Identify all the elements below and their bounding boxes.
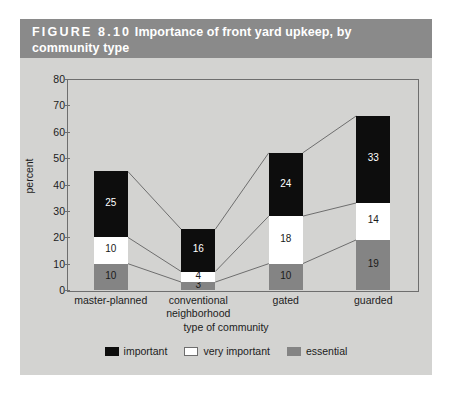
y-tick-label: 50 [39,152,65,164]
connector-line [303,240,357,264]
legend-item[interactable]: essential [287,345,347,357]
connector-line [215,264,269,282]
figure-title: FIGURE 8.10 Importance of front yard upk… [32,24,420,56]
bar-conventional-neighborhood[interactable]: 3416 [181,229,215,290]
y-tick-label: 20 [39,231,65,243]
y-tick-label: 60 [39,126,65,138]
connector-line [303,203,357,216]
bar-segment-value: 24 [269,179,303,189]
x-tick-label-line: neighborhood [143,307,253,320]
connector-line [128,171,182,229]
bar-segment-value: 33 [356,153,390,163]
legend-label: very important [203,345,270,357]
bar-segment-value: 10 [269,271,303,281]
bar-segment-essential[interactable]: 19 [356,240,390,290]
y-tick-label: 30 [39,205,65,217]
connector-line [128,264,182,282]
bar-gated[interactable]: 101824 [269,153,303,290]
x-tick-label: guarded [318,294,428,307]
very-important-swatch [184,347,198,356]
figure-panel: FIGURE 8.10 Importance of front yard upk… [20,19,432,375]
legend-label: important [124,345,168,357]
bar-segment-very-important[interactable]: 14 [356,203,390,240]
legend-label: essential [306,345,347,357]
bar-segment-very-important[interactable]: 10 [94,237,128,263]
bar-segment-value: 19 [356,259,390,269]
bar-segment-essential[interactable]: 3 [181,282,215,290]
bar-segment-value: 25 [94,198,128,208]
bar-segment-value: 16 [181,244,215,254]
y-tick-label: 10 [39,258,65,270]
bar-segment-important[interactable]: 25 [94,171,128,237]
bar-guarded[interactable]: 191433 [356,116,390,290]
bar-segment-very-important[interactable]: 18 [269,216,303,263]
figure-title-bar: FIGURE 8.10 Importance of front yard upk… [20,19,432,58]
y-tick-label: 70 [39,99,65,111]
connector-line [128,237,182,271]
y-tick-label: 80 [39,73,65,85]
important-swatch [105,347,119,356]
bar-segment-important[interactable]: 16 [181,229,215,271]
essential-swatch [287,347,301,356]
bar-segment-essential[interactable]: 10 [94,264,128,290]
bar-segment-essential[interactable]: 10 [269,264,303,290]
bar-segment-value: 10 [94,271,128,281]
y-axis-tick-labels: 01020304050607080 [32,79,65,290]
bar-segment-value: 14 [356,215,390,225]
bar-segment-value: 18 [269,234,303,244]
bar-segment-value: 4 [181,271,215,281]
bar-segment-important[interactable]: 33 [356,116,390,203]
x-axis-title: type of community [20,321,432,333]
legend-item[interactable]: very important [184,345,270,357]
figure-number: FIGURE 8.10 [32,25,131,39]
bar-segment-value: 10 [94,244,128,254]
connector-line [215,153,269,229]
bar-segment-important[interactable]: 24 [269,153,303,216]
chart-area: percent 01020304050607080 10102534161018… [20,58,432,375]
chart-legend: importantvery importantessential [20,345,432,357]
bar-segment-very-important[interactable]: 4 [181,272,215,283]
x-tick-label-line: guarded [318,294,428,307]
bar-master-planned[interactable]: 101025 [94,171,128,290]
connector-line [215,216,269,271]
y-tick-label: 40 [39,179,65,191]
connector-line [303,116,357,153]
legend-item[interactable]: important [105,345,168,357]
plot-inner: 1010253416101824191433 [67,79,417,290]
